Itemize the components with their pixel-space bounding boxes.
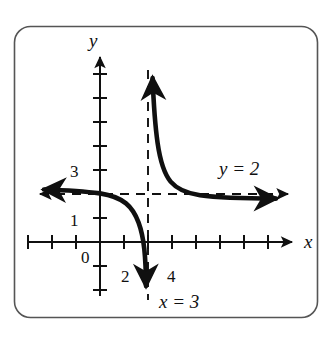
coordinate-graph-svg: y x 0 2 4 1 3 y = 2 x = 3 [0,0,332,340]
x-axis-label: x [303,231,313,252]
vertical-asymptote-label: x = 3 [158,291,199,312]
y-tick-label-3: 3 [70,162,79,181]
x-tick-label-2: 2 [121,267,130,286]
x-tick-label-4: 4 [167,267,176,286]
y-axis-label: y [87,30,98,51]
horizontal-asymptote-label: y = 2 [217,158,260,179]
y-tick-label-1: 1 [70,211,79,230]
origin-label: 0 [81,248,90,267]
graph-figure: y x 0 2 4 1 3 y = 2 x = 3 [0,0,332,340]
